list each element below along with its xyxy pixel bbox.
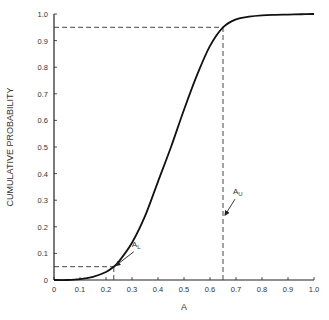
x-tick-label: 0.4 xyxy=(153,285,163,294)
y-tick-label: 0.6 xyxy=(38,116,48,125)
y-tick-label: 0 xyxy=(44,276,48,285)
x-tick-label: 0.2 xyxy=(101,285,111,294)
annotations: ALAU xyxy=(116,187,243,266)
x-tick-label: 0.7 xyxy=(231,285,241,294)
y-axis-label: CUMULATIVE PROBABILITY xyxy=(5,88,15,207)
y-tick-label: 0.5 xyxy=(38,143,48,152)
annotation-label: AU xyxy=(233,187,243,197)
x-tick-label: 0.8 xyxy=(257,285,267,294)
series-line-cdf xyxy=(54,14,314,280)
x-tick-label: 1.0 xyxy=(309,285,319,294)
x-tick-label: 0.5 xyxy=(179,285,189,294)
y-tick-label: 0.7 xyxy=(38,90,48,99)
y-tick-label: 0.4 xyxy=(38,170,48,179)
cdf-chart: 00.10.20.30.40.50.60.70.80.91.000.10.20.… xyxy=(0,0,329,320)
y-tick-label: 0.8 xyxy=(38,63,48,72)
x-tick-label: 0.9 xyxy=(283,285,293,294)
annotation-subscript: L xyxy=(137,244,141,250)
ticks: 00.10.20.30.40.50.60.70.80.91.000.10.20.… xyxy=(38,10,320,294)
annotation-arrow xyxy=(225,199,235,215)
series xyxy=(54,14,314,280)
x-tick-label: 0 xyxy=(52,285,56,294)
annotation-subscript: U xyxy=(238,191,242,197)
x-axis-label: A xyxy=(181,302,187,312)
axes xyxy=(54,14,314,280)
y-tick-label: 0.9 xyxy=(38,37,48,46)
reference-lines xyxy=(54,27,223,280)
x-tick-label: 0.1 xyxy=(75,285,85,294)
y-tick-label: 0.1 xyxy=(38,249,48,258)
y-tick-label: 0.3 xyxy=(38,196,48,205)
x-tick-label: 0.3 xyxy=(127,285,137,294)
y-tick-label: 1.0 xyxy=(38,10,48,19)
annotation-label: AL xyxy=(132,240,141,250)
y-tick-label: 0.2 xyxy=(38,223,48,232)
x-tick-label: 0.6 xyxy=(205,285,215,294)
